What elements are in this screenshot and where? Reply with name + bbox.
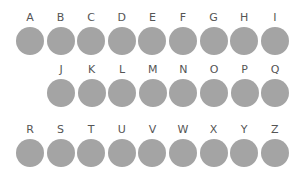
letter-circle-button[interactable] — [138, 139, 166, 167]
letter-label: C — [76, 12, 106, 24]
letter-circle-button[interactable] — [16, 139, 44, 167]
letter-item-w[interactable]: W — [168, 124, 198, 174]
letter-item-c[interactable]: C — [76, 12, 106, 62]
letter-row-2: JKLMNOPQ — [0, 64, 306, 114]
letter-circle-button[interactable] — [200, 139, 228, 167]
letter-item-o[interactable]: O — [199, 64, 229, 114]
letter-item-k[interactable]: K — [77, 64, 107, 114]
letter-label: M — [138, 64, 168, 76]
letter-label: Q — [260, 64, 290, 76]
letter-item-y[interactable]: Y — [229, 124, 259, 174]
letter-circle-button[interactable] — [47, 27, 75, 55]
letter-circle-button[interactable] — [231, 79, 259, 107]
letter-circle-button[interactable] — [77, 139, 105, 167]
letter-circle-button[interactable] — [200, 79, 228, 107]
letter-item-u[interactable]: U — [107, 124, 137, 174]
letter-label: N — [168, 64, 198, 76]
letter-label: W — [168, 124, 198, 136]
letter-label: I — [260, 12, 290, 24]
letter-label: Y — [229, 124, 259, 136]
letter-label: U — [107, 124, 137, 136]
letter-label: F — [168, 12, 198, 24]
letter-circle-button[interactable] — [47, 139, 75, 167]
letter-circle-button[interactable] — [261, 139, 289, 167]
letter-item-l[interactable]: L — [107, 64, 137, 114]
letter-circle-button[interactable] — [139, 79, 167, 107]
letter-circle-button[interactable] — [77, 27, 105, 55]
letter-row-1: ABCDEFGHI — [0, 12, 306, 62]
letter-circle-button[interactable] — [16, 27, 44, 55]
letter-label: J — [46, 64, 76, 76]
letter-circle-button[interactable] — [108, 139, 136, 167]
letter-label: R — [15, 124, 45, 136]
letter-label: L — [107, 64, 137, 76]
letter-label: P — [230, 64, 260, 76]
letter-circle-button[interactable] — [230, 27, 258, 55]
letter-circle-button[interactable] — [261, 27, 289, 55]
letter-item-q[interactable]: Q — [260, 64, 290, 114]
letter-label: Z — [260, 124, 290, 136]
letter-label: O — [199, 64, 229, 76]
letter-item-g[interactable]: G — [199, 12, 229, 62]
letter-label: X — [199, 124, 229, 136]
letter-item-j[interactable]: J — [46, 64, 76, 114]
letter-circle-button[interactable] — [200, 27, 228, 55]
letter-item-e[interactable]: E — [137, 12, 167, 62]
letter-item-z[interactable]: Z — [260, 124, 290, 174]
letter-label: S — [46, 124, 76, 136]
letter-circle-button[interactable] — [78, 79, 106, 107]
letter-label: V — [137, 124, 167, 136]
letter-circle-button[interactable] — [108, 79, 136, 107]
letter-item-x[interactable]: X — [199, 124, 229, 174]
letter-circle-button[interactable] — [230, 139, 258, 167]
letter-item-a[interactable]: A — [15, 12, 45, 62]
letter-circle-button[interactable] — [108, 27, 136, 55]
letter-item-t[interactable]: T — [76, 124, 106, 174]
letter-item-r[interactable]: R — [15, 124, 45, 174]
letter-circle-button[interactable] — [169, 79, 197, 107]
letter-label: G — [199, 12, 229, 24]
letter-item-m[interactable]: M — [138, 64, 168, 114]
letter-label: E — [137, 12, 167, 24]
letter-circle-button[interactable] — [169, 27, 197, 55]
letter-item-h[interactable]: H — [229, 12, 259, 62]
letter-item-n[interactable]: N — [168, 64, 198, 114]
letter-row-3: RSTUVWXYZ — [0, 124, 306, 174]
letter-label: D — [107, 12, 137, 24]
letter-circle-button[interactable] — [138, 27, 166, 55]
letter-item-i[interactable]: I — [260, 12, 290, 62]
letter-label: B — [46, 12, 76, 24]
letter-label: H — [229, 12, 259, 24]
letter-circle-button[interactable] — [261, 79, 289, 107]
letter-item-b[interactable]: B — [46, 12, 76, 62]
letter-circle-button[interactable] — [47, 79, 75, 107]
letter-label: K — [77, 64, 107, 76]
letter-label: A — [15, 12, 45, 24]
letter-circle-button[interactable] — [169, 139, 197, 167]
letter-item-v[interactable]: V — [137, 124, 167, 174]
letter-item-p[interactable]: P — [230, 64, 260, 114]
letter-item-f[interactable]: F — [168, 12, 198, 62]
letter-item-s[interactable]: S — [46, 124, 76, 174]
letter-item-d[interactable]: D — [107, 12, 137, 62]
letter-label: T — [76, 124, 106, 136]
